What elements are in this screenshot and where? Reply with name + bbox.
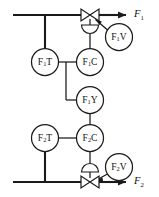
instrument-bubble-f1t[interactable]: F1T	[32, 49, 59, 76]
arrowhead-stream-1	[118, 12, 126, 19]
bubble-label-f2v: F2V	[111, 162, 127, 173]
stream-labels-group: F1 F2	[133, 8, 144, 187]
process-diagram-figure: F1T F1C F1V F1Y F2T F2C	[0, 0, 159, 197]
valve-1-left-triangle	[81, 9, 90, 21]
valve-2-left-triangle	[81, 176, 90, 188]
instrument-bubble-f1c[interactable]: F1C	[77, 49, 104, 76]
instrument-bubble-f2t[interactable]: F2T	[32, 125, 59, 152]
bubble-label-f1v: F1V	[111, 32, 127, 43]
stream-label-f2: F2	[133, 175, 144, 187]
valve-1-diaphragm-actuator	[82, 25, 99, 34]
instrument-bubble-f2v[interactable]: F2V	[106, 154, 133, 181]
instrument-bubble-f2c[interactable]: F2C	[77, 125, 104, 152]
diagram-canvas: F1T F1C F1V F1Y F2T F2C	[0, 0, 159, 197]
instrument-bubbles-group: F1T F1C F1V F1Y F2T F2C	[32, 24, 133, 181]
valve-2-right-triangle	[90, 176, 99, 188]
instrument-bubble-f1v[interactable]: F1V	[106, 24, 133, 51]
stream-label-f1: F1	[133, 8, 144, 20]
valve-2-diaphragm-actuator	[82, 164, 99, 173]
valve-1-right-triangle	[90, 9, 99, 21]
instrument-bubble-f1y[interactable]: F1Y	[77, 87, 104, 114]
bubble-label-f1y: F1Y	[82, 95, 98, 106]
